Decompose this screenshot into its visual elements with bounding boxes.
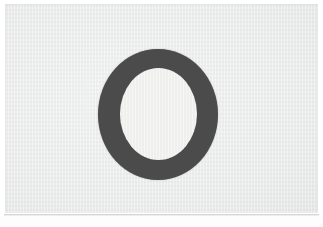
footer-margin-strip bbox=[0, 216, 323, 227]
ring-inner-hole bbox=[120, 68, 197, 160]
paper-edge-right bbox=[317, 4, 318, 213]
paper-edge-left bbox=[5, 4, 6, 213]
paper-edge-top bbox=[5, 4, 318, 5]
scanned-image-canvas: Dark gray ring shape on light gray scann… bbox=[0, 0, 323, 227]
ring-hole-grain-texture bbox=[120, 68, 197, 160]
ring-annulus-shape bbox=[98, 49, 218, 180]
